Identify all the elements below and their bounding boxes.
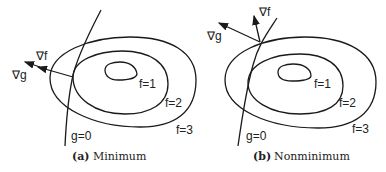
label-grad-g: ∇g bbox=[206, 29, 222, 43]
constraint-curve-g0 bbox=[238, 18, 277, 146]
label-grad-f: ∇f bbox=[35, 49, 48, 63]
contour-f1 bbox=[105, 62, 137, 80]
constraint-curve-g0 bbox=[65, 10, 101, 146]
caption-text: Nonminimum bbox=[274, 150, 350, 163]
label-f3: f=3 bbox=[352, 122, 369, 136]
label-f3: f=3 bbox=[176, 123, 193, 137]
label-g0: g=0 bbox=[246, 129, 267, 143]
label-f2: f=2 bbox=[165, 96, 182, 110]
label-grad-f: ∇f bbox=[258, 5, 271, 19]
contour-f1 bbox=[278, 64, 311, 81]
grad-f-arrow bbox=[38, 67, 73, 77]
label-f1: f=1 bbox=[139, 77, 156, 91]
label-f2: f=2 bbox=[339, 96, 356, 110]
caption-text: Minimum bbox=[93, 150, 147, 163]
panel-minimum: ∇f ∇g f=1 f=2 f=3 g=0 (a) Minimum bbox=[11, 10, 196, 163]
caption-letter: (a) bbox=[72, 150, 90, 163]
label-g0: g=0 bbox=[71, 129, 92, 143]
caption-letter: (b) bbox=[253, 150, 271, 163]
grad-g-arrow bbox=[219, 23, 260, 42]
label-grad-g: ∇g bbox=[11, 68, 27, 82]
grad-f-arrow bbox=[254, 16, 260, 42]
lagrange-diagram: ∇f ∇g f=1 f=2 f=3 g=0 (a) Minimum ∇f ∇g … bbox=[0, 0, 386, 172]
label-f1: f=1 bbox=[314, 77, 331, 91]
panel-nonminimum: ∇f ∇g f=1 f=2 f=3 g=0 (b) Nonminimum bbox=[206, 5, 376, 163]
